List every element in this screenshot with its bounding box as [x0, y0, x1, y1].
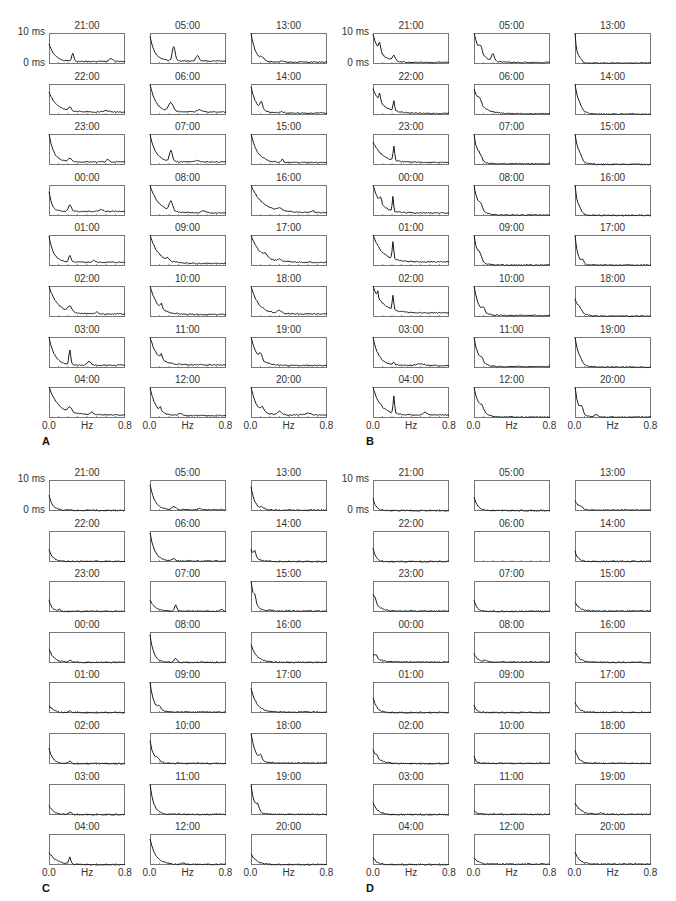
- plot-title: 11:00: [462, 771, 562, 782]
- plot-title: 23:00: [361, 121, 461, 132]
- spectrum-line: [474, 185, 550, 216]
- plot-title: 09:00: [138, 669, 238, 680]
- spectrum-line: [575, 632, 651, 663]
- spectrum-line: [251, 733, 327, 764]
- spectrum-line: [474, 531, 550, 562]
- x-axis-unit-label: Hz: [607, 420, 619, 431]
- panel-letter: C: [42, 882, 50, 894]
- spectrum-line: [373, 235, 449, 266]
- plot-title: 21:00: [361, 20, 461, 31]
- spectrum-line: [49, 84, 125, 115]
- spectrum-plot-b-2200: [373, 84, 449, 115]
- spectrum-line: [251, 387, 327, 418]
- spectrum-line: [474, 682, 550, 713]
- spectrum-plot-a-0600: [150, 84, 226, 115]
- spectrum-plot-b-0600: [474, 84, 550, 115]
- x-axis-min-label: 0.0: [467, 867, 481, 878]
- spectrum-plot-a-0700: [150, 134, 226, 165]
- spectrum-plot-d-0500: [474, 480, 550, 511]
- spectrum-plot-d-2100: [373, 480, 449, 511]
- spectrum-plot-c-2000: [251, 834, 327, 865]
- plot-title: 06:00: [462, 71, 562, 82]
- spectrum-line: [474, 784, 550, 815]
- plot-title: 15:00: [563, 568, 663, 579]
- plot-title: 05:00: [138, 20, 238, 31]
- spectrum-line: [575, 185, 651, 216]
- plot-title: 16:00: [239, 619, 339, 630]
- plot-title: 20:00: [563, 821, 663, 832]
- x-axis-unit-label: Hz: [283, 420, 295, 431]
- spectrum-line: [150, 632, 226, 663]
- plot-title: 10:00: [462, 720, 562, 731]
- spectrum-plot-a-1700: [251, 235, 327, 266]
- panel-letter: A: [42, 435, 50, 447]
- plot-title: 06:00: [138, 71, 238, 82]
- spectrum-plot-b-1100: [474, 337, 550, 368]
- x-axis-max-label: 0.8: [543, 420, 557, 431]
- x-axis-unit-label: Hz: [405, 867, 417, 878]
- spectrum-plot-c-1400: [251, 531, 327, 562]
- spectrum-plot-d-1900: [575, 784, 651, 815]
- spectrum-line: [474, 480, 550, 511]
- plot-title: 21:00: [361, 467, 461, 478]
- spectrum-plot-b-2000: [575, 387, 651, 418]
- plot-title: 12:00: [462, 821, 562, 832]
- y-axis-min-label: 0 ms: [325, 57, 369, 68]
- spectrum-plot-b-1900: [575, 337, 651, 368]
- spectrum-line: [575, 733, 651, 764]
- plot-title: 06:00: [138, 518, 238, 529]
- spectrum-line: [575, 33, 651, 64]
- plot-title: 00:00: [361, 619, 461, 630]
- x-axis-max-label: 0.8: [219, 420, 233, 431]
- spectrum-plot-b-1000: [474, 286, 550, 317]
- plot-title: 01:00: [361, 669, 461, 680]
- x-axis-min-label: 0.0: [568, 867, 582, 878]
- spectrum-line: [49, 286, 125, 317]
- spectrum-plot-d-0900: [474, 682, 550, 713]
- spectrum-line: [575, 581, 651, 612]
- spectrum-plot-c-0900: [150, 682, 226, 713]
- spectrum-plot-b-0400: [373, 387, 449, 418]
- plot-title: 19:00: [563, 324, 663, 335]
- spectrum-line: [251, 480, 327, 511]
- spectrum-plot-c-1700: [251, 682, 327, 713]
- spectrum-line: [49, 531, 125, 562]
- spectrum-line: [49, 337, 125, 368]
- spectrum-line: [150, 480, 226, 511]
- plot-title: 23:00: [37, 568, 137, 579]
- spectrum-line: [150, 733, 226, 764]
- plot-title: 23:00: [37, 121, 137, 132]
- plot-title: 03:00: [361, 324, 461, 335]
- spectrum-plot-c-1600: [251, 632, 327, 663]
- spectrum-line: [575, 387, 651, 418]
- spectrum-line: [474, 134, 550, 165]
- spectrum-plot-d-2200: [373, 531, 449, 562]
- x-axis-max-label: 0.8: [644, 867, 658, 878]
- plot-title: 02:00: [37, 720, 137, 731]
- plot-title: 15:00: [239, 121, 339, 132]
- spectrum-line: [150, 84, 226, 115]
- plot-title: 11:00: [138, 771, 238, 782]
- spectrum-plot-d-1600: [575, 632, 651, 663]
- x-axis-max-label: 0.8: [320, 420, 334, 431]
- spectrum-line: [373, 834, 449, 865]
- spectrum-line: [373, 185, 449, 216]
- plot-title: 00:00: [361, 172, 461, 183]
- plot-title: 10:00: [138, 720, 238, 731]
- spectrum-line: [474, 387, 550, 418]
- plot-title: 07:00: [138, 121, 238, 132]
- spectrum-line: [373, 581, 449, 612]
- spectrum-line: [575, 784, 651, 815]
- x-axis-unit-label: Hz: [506, 867, 518, 878]
- spectrum-plot-a-0400: [49, 387, 125, 418]
- x-axis-max-label: 0.8: [442, 867, 456, 878]
- plot-title: 22:00: [361, 518, 461, 529]
- plot-title: 18:00: [239, 273, 339, 284]
- spectrum-line: [49, 235, 125, 266]
- spectrum-plot-c-2300: [49, 581, 125, 612]
- x-axis-max-label: 0.8: [442, 420, 456, 431]
- plot-title: 21:00: [37, 467, 137, 478]
- spectrum-line: [373, 733, 449, 764]
- spectrum-plot-c-2200: [49, 531, 125, 562]
- plot-title: 09:00: [462, 669, 562, 680]
